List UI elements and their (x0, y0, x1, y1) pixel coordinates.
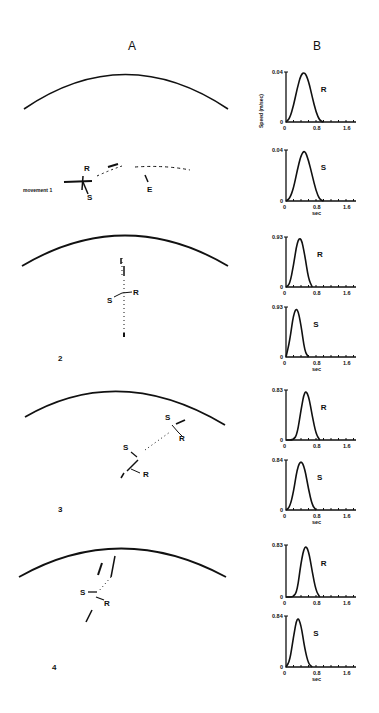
y-max-label: 0.84 (272, 613, 284, 619)
speed-curve (286, 547, 320, 597)
series-label: R (321, 403, 327, 412)
series-label: R (317, 250, 323, 259)
speed-curve (286, 392, 320, 440)
x-tick-label: 0.8 (313, 600, 321, 606)
figure: A B movement 1 R S E S R 2 S R S R (0, 0, 379, 713)
x-tick-label: 0 (283, 513, 286, 519)
x-axis-label: sec (312, 519, 321, 525)
axes (286, 307, 356, 357)
y-max-label: 0.84 (272, 457, 284, 463)
movement-2-trace (22, 236, 228, 338)
series-label: R (321, 559, 327, 568)
x-tick-label: 0.8 (313, 125, 321, 131)
x-tick-label: 0 (283, 204, 286, 210)
x-tick-label: 1.6 (343, 513, 351, 519)
speed-curve (286, 310, 309, 357)
x-tick-label: 0 (283, 670, 286, 676)
x-tick-label: 1.6 (343, 600, 351, 606)
movement-1-trace (24, 75, 228, 195)
x-axis-label: sec (312, 210, 321, 216)
marker-r: R (84, 164, 90, 173)
x-axis-label: sec (312, 676, 321, 682)
speed-plot-4-r: 0.83000.81.6R (272, 542, 356, 606)
speed-curve (286, 73, 324, 122)
speed-plot-4-s: 0.84000.81.6secS (272, 613, 356, 682)
y-axis-label: Speed (m/sec) (258, 94, 264, 128)
speed-plots: 0.04000.81.6R0.04000.81.6secS0.93000.81.… (272, 69, 356, 682)
marker-r: R (104, 599, 110, 608)
x-tick-label: 1.6 (343, 670, 351, 676)
series-label: S (321, 163, 327, 172)
axes (286, 460, 356, 510)
x-tick-label: 0.8 (313, 443, 321, 449)
speed-curve (286, 239, 312, 287)
movement-3-trace (25, 391, 225, 478)
marker-s: S (107, 296, 113, 305)
panel-a-label: A (128, 39, 136, 53)
y-max-label: 0.83 (272, 387, 283, 393)
marker-s: S (165, 413, 171, 422)
axes (286, 72, 356, 122)
series-label: S (313, 320, 319, 329)
x-tick-label: 1.6 (343, 204, 351, 210)
x-tick-label: 0 (283, 360, 286, 366)
movement-4-trace (19, 549, 226, 623)
marker-r: R (179, 434, 185, 443)
series-label: S (317, 473, 323, 482)
x-tick-label: 1.6 (343, 290, 351, 296)
speed-plot-3-s: 0.84000.81.6secS (272, 457, 356, 525)
series-label: S (313, 629, 319, 638)
marker-e: E (147, 185, 153, 194)
marker-s: S (123, 443, 129, 452)
x-axis-label: sec (312, 366, 321, 372)
marker-r: R (143, 470, 149, 479)
x-tick-label: 0 (283, 600, 286, 606)
x-tick-label: 1.6 (343, 360, 351, 366)
speed-plot-1-r: 0.04000.81.6R (272, 69, 356, 131)
movement-1-label: movement 1 (23, 187, 52, 193)
y-max-label: 0.93 (272, 234, 283, 240)
x-tick-label: 0.8 (313, 290, 321, 296)
speed-curve (286, 462, 316, 510)
x-tick-label: 1.6 (343, 125, 351, 131)
x-tick-label: 1.6 (343, 443, 351, 449)
speed-plot-2-r: 0.93000.81.6R (272, 234, 356, 296)
speed-plot-3-r: 0.83000.81.6R (272, 387, 356, 449)
movement-2-label: 2 (58, 354, 63, 363)
y-max-label: 0.04 (272, 147, 284, 153)
speed-curve (286, 152, 324, 201)
x-tick-label: 0 (283, 125, 286, 131)
speed-plot-2-s: 0.93000.81.6secS (272, 304, 356, 372)
marker-s: S (80, 588, 86, 597)
y-max-label: 0.93 (272, 304, 283, 310)
x-tick-label: 0 (283, 443, 286, 449)
movement-4-label: 4 (52, 663, 57, 672)
x-tick-label: 0 (283, 290, 286, 296)
panel-b-label: B (313, 39, 321, 53)
speed-curve (286, 619, 312, 667)
movement-3-label: 3 (58, 505, 63, 514)
marker-r: R (133, 288, 139, 297)
y-max-label: 0.83 (272, 542, 283, 548)
y-max-label: 0.04 (272, 69, 284, 75)
series-label: R (321, 85, 327, 94)
marker-s: S (87, 193, 93, 202)
speed-plot-1-s: 0.04000.81.6secS (272, 147, 356, 216)
